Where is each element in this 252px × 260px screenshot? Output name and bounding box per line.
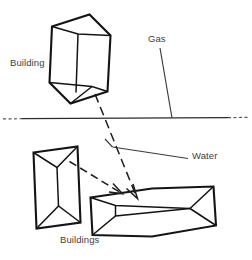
label-water: Water <box>192 150 217 161</box>
label-gas: Gas <box>148 33 166 44</box>
building-upper <box>50 15 111 104</box>
reflection-arrow-short-head <box>109 184 123 194</box>
water-leader-line <box>113 147 189 159</box>
building-lower-left-outline <box>34 147 81 229</box>
building-lower-left <box>34 147 81 229</box>
interface-line-solid <box>22 118 228 119</box>
label-building: Building <box>10 57 45 68</box>
reflection-arrow-main <box>95 94 138 199</box>
water-leader-tick <box>105 139 113 147</box>
reflection-arrow-main-shaft <box>95 94 137 198</box>
diagram-vector-layer <box>0 0 252 260</box>
interface-reference-line <box>3 117 249 119</box>
diagram-canvas: Building Gas Water Buildings <box>0 0 252 260</box>
building-lower-right <box>91 187 217 237</box>
gas-leader <box>160 48 172 118</box>
gas-leader-line <box>160 48 172 118</box>
label-buildings: Buildings <box>60 234 99 245</box>
